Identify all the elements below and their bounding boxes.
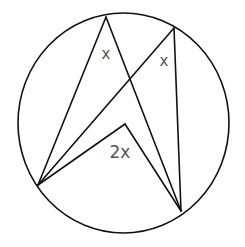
angle-label-b: x (160, 52, 169, 70)
chord-a-d (106, 17, 181, 211)
circle-theorem-diagram: x x 2x (0, 0, 245, 247)
angle-label-centre: 2x (110, 142, 131, 162)
chord-b-d (174, 28, 181, 211)
chord-c-a (38, 17, 106, 185)
circle (18, 13, 229, 233)
angle-label-a: x (102, 45, 111, 63)
